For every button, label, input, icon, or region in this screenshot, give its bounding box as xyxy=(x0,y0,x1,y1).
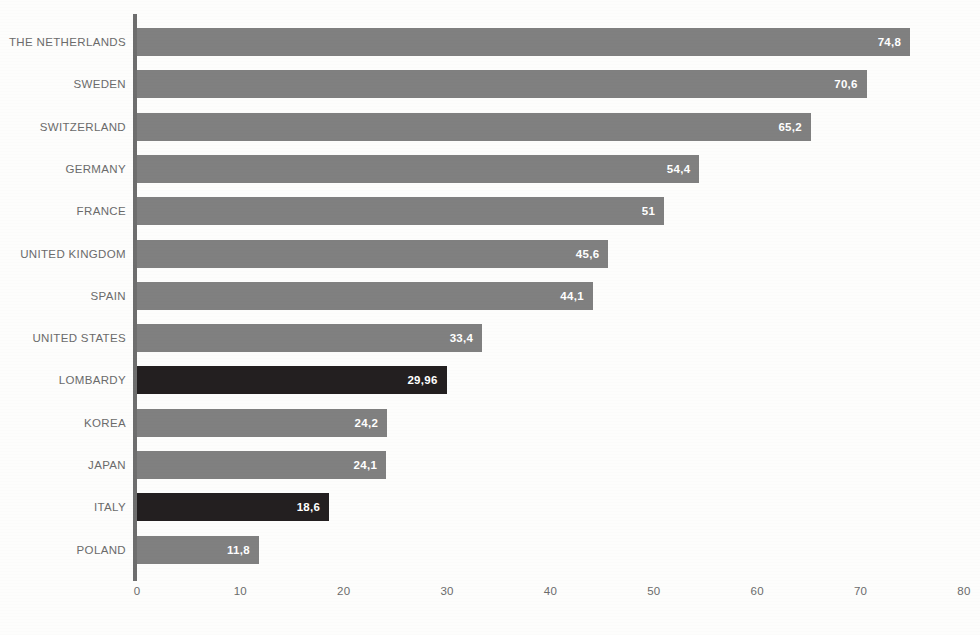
bar-value-label: 45,6 xyxy=(576,240,600,268)
bar[interactable]: 24,2 xyxy=(137,409,387,437)
category-label: THE NETHERLANDS xyxy=(0,28,126,56)
plot-area: THE NETHERLANDS74,8SWEDEN70,6SWITZERLAND… xyxy=(0,0,980,635)
bar-row[interactable]: LOMBARDY29,96 xyxy=(0,366,980,394)
bar[interactable]: 24,1 xyxy=(137,451,386,479)
bar-value-label: 24,1 xyxy=(354,451,378,479)
bar-row[interactable]: GERMANY54,4 xyxy=(0,155,980,183)
bar-value-label: 51 xyxy=(642,197,655,225)
bar-row[interactable]: POLAND11,8 xyxy=(0,536,980,564)
category-label: LOMBARDY xyxy=(0,366,126,394)
category-label: KOREA xyxy=(0,409,126,437)
category-label: FRANCE xyxy=(0,197,126,225)
x-axis-tick-label: 50 xyxy=(624,585,684,597)
bar-value-label: 18,6 xyxy=(297,493,321,521)
bar-row[interactable]: SWITZERLAND65,2 xyxy=(0,113,980,141)
x-axis-tick-label: 40 xyxy=(521,585,581,597)
bar[interactable]: 54,4 xyxy=(137,155,699,183)
x-axis-tick-label: 30 xyxy=(417,585,477,597)
bar-chart: THE NETHERLANDS74,8SWEDEN70,6SWITZERLAND… xyxy=(0,0,980,635)
x-axis-tick-label: 10 xyxy=(210,585,270,597)
bar-value-label: 11,8 xyxy=(227,536,250,564)
category-label: SPAIN xyxy=(0,282,126,310)
x-axis: 01020304050607080 xyxy=(0,585,980,613)
bar[interactable]: 74,8 xyxy=(137,28,910,56)
bar[interactable]: 51 xyxy=(137,197,664,225)
bar-row[interactable]: UNITED KINGDOM45,6 xyxy=(0,240,980,268)
x-axis-tick-label: 0 xyxy=(107,585,167,597)
bar-row[interactable]: ITALY18,6 xyxy=(0,493,980,521)
bar[interactable]: 33,4 xyxy=(137,324,482,352)
bar-row[interactable]: SPAIN44,1 xyxy=(0,282,980,310)
category-label: POLAND xyxy=(0,536,126,564)
bar-row[interactable]: KOREA24,2 xyxy=(0,409,980,437)
category-label: JAPAN xyxy=(0,451,126,479)
x-axis-tick-label: 20 xyxy=(314,585,374,597)
bar-row[interactable]: THE NETHERLANDS74,8 xyxy=(0,28,980,56)
bar-row[interactable]: FRANCE51 xyxy=(0,197,980,225)
x-axis-tick-label: 70 xyxy=(831,585,891,597)
category-label: GERMANY xyxy=(0,155,126,183)
bar-row[interactable]: SWEDEN70,6 xyxy=(0,70,980,98)
bar-value-label: 70,6 xyxy=(834,70,858,98)
bar-value-label: 29,96 xyxy=(407,366,437,394)
bar-value-label: 74,8 xyxy=(878,28,902,56)
bar-value-label: 24,2 xyxy=(355,409,379,437)
bar[interactable]: 45,6 xyxy=(137,240,608,268)
bar-row[interactable]: JAPAN24,1 xyxy=(0,451,980,479)
category-label: UNITED STATES xyxy=(0,324,126,352)
category-label: ITALY xyxy=(0,493,126,521)
bar-value-label: 44,1 xyxy=(560,282,584,310)
x-axis-tick-label: 60 xyxy=(727,585,787,597)
bar[interactable]: 29,96 xyxy=(137,366,447,394)
category-label: UNITED KINGDOM xyxy=(0,240,126,268)
bar[interactable]: 44,1 xyxy=(137,282,593,310)
bar[interactable]: 70,6 xyxy=(137,70,867,98)
category-label: SWITZERLAND xyxy=(0,113,126,141)
bar[interactable]: 18,6 xyxy=(137,493,329,521)
x-axis-tick-label: 80 xyxy=(934,585,980,597)
bar[interactable]: 65,2 xyxy=(137,113,811,141)
bar-row[interactable]: UNITED STATES33,4 xyxy=(0,324,980,352)
bar[interactable]: 11,8 xyxy=(137,536,259,564)
category-label: SWEDEN xyxy=(0,70,126,98)
bar-value-label: 65,2 xyxy=(778,113,802,141)
bar-value-label: 33,4 xyxy=(450,324,474,352)
bar-value-label: 54,4 xyxy=(667,155,691,183)
